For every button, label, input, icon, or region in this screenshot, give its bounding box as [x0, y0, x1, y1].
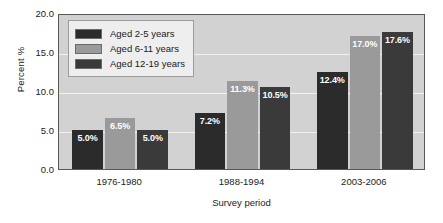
legend-item[interactable]: Aged 12-19 years — [75, 56, 185, 71]
legend-item[interactable]: Aged 6-11 years — [75, 41, 185, 56]
bar-chart-figure: Percent % 0.05.010.015.020.0 5.0%6.5%5.0… — [0, 0, 443, 223]
plot-area: 5.0%6.5%5.0%7.2%11.3%10.5%12.4%17.0%17.6… — [58, 14, 425, 170]
y-tick-label: 15.0 — [24, 48, 54, 58]
y-tick-label: 10.0 — [24, 87, 54, 97]
legend-label: Aged 6-11 years — [110, 43, 179, 54]
bar[interactable]: 17.6% — [382, 32, 413, 169]
y-axis-tick-labels: 0.05.010.015.020.0 — [22, 0, 54, 223]
bar-value-label: 17.0% — [350, 39, 381, 49]
bar-value-label: 10.5% — [260, 90, 291, 100]
bar-value-label: 11.3% — [227, 84, 258, 94]
x-tick-label: 2003-2006 — [324, 176, 404, 187]
bar[interactable]: 5.0% — [72, 130, 103, 169]
bar-value-label: 17.6% — [382, 35, 413, 45]
y-tick-label: 5.0 — [24, 126, 54, 136]
bar-group: 12.4%17.0%17.6% — [316, 15, 414, 169]
bar[interactable]: 10.5% — [260, 87, 291, 169]
bar-value-label: 7.2% — [195, 116, 226, 126]
legend-label: Aged 12-19 years — [110, 58, 185, 69]
bar[interactable]: 17.0% — [350, 36, 381, 169]
bar[interactable]: 6.5% — [105, 118, 136, 169]
legend-swatch-icon — [75, 29, 102, 39]
bar[interactable]: 5.0% — [137, 130, 168, 169]
x-tick-label: 1988-1994 — [202, 176, 282, 187]
legend-item[interactable]: Aged 2-5 years — [75, 26, 185, 41]
bar-value-label: 6.5% — [105, 121, 136, 131]
bar-group: 7.2%11.3%10.5% — [194, 15, 292, 169]
legend-swatch-icon — [75, 44, 102, 54]
x-axis-title: Survey period — [58, 197, 425, 208]
legend-swatch-icon — [75, 59, 102, 69]
bar[interactable]: 12.4% — [317, 72, 348, 169]
bar-value-label: 12.4% — [317, 75, 348, 85]
bar[interactable]: 11.3% — [227, 81, 258, 169]
y-tick-label: 0.0 — [24, 165, 54, 175]
bar-value-label: 5.0% — [137, 133, 168, 143]
x-tick-label: 1976-1980 — [79, 176, 159, 187]
bar[interactable]: 7.2% — [195, 113, 226, 169]
y-tick-label: 20.0 — [24, 9, 54, 19]
legend: Aged 2-5 yearsAged 6-11 yearsAged 12-19 … — [68, 20, 194, 77]
bar-value-label: 5.0% — [72, 133, 103, 143]
legend-label: Aged 2-5 years — [110, 28, 174, 39]
